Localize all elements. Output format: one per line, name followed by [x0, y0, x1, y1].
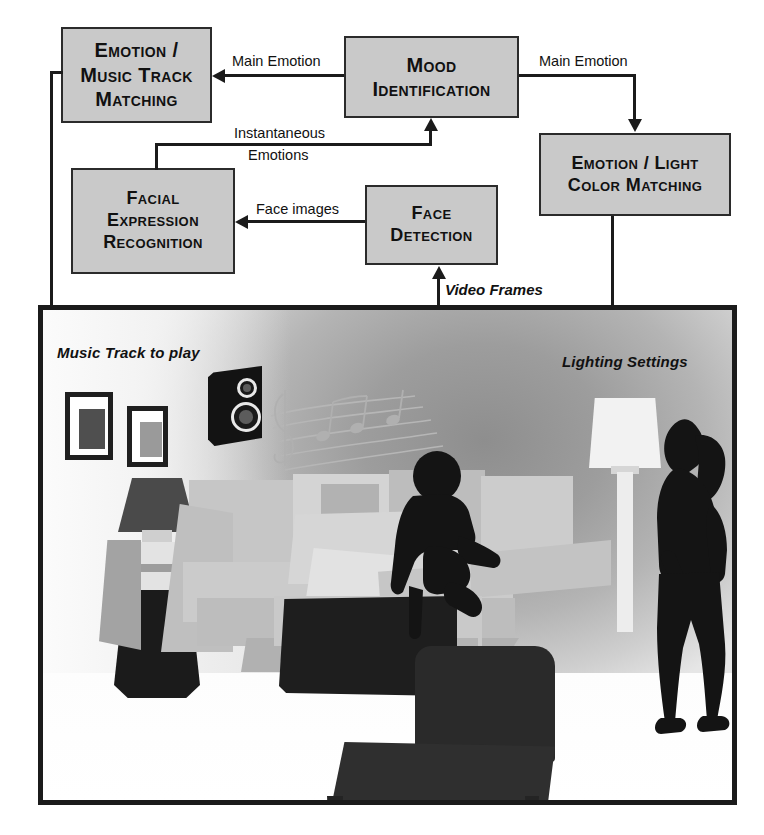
box-line: Identification — [372, 77, 490, 101]
edge-face-to-facial-line — [248, 220, 365, 223]
box-mood-identification[interactable]: Mood Identification — [344, 36, 519, 118]
edge-label-main-emotion-left: Main Emotion — [232, 52, 321, 70]
edge-mood-to-light-vertical — [633, 74, 636, 120]
edge-face-to-facial-arrowhead — [235, 215, 248, 229]
speaker-icon — [204, 362, 266, 450]
edge-mood-to-music-arrowhead — [212, 69, 225, 83]
diagram-canvas: Emotion / Music Track Matching Mood Iden… — [0, 0, 764, 835]
edge-facial-to-mood-vertical-left — [155, 143, 158, 170]
caption-music-track-to-play: Music Track to play — [57, 344, 200, 361]
edge-label-main-emotion-right: Main Emotion — [539, 52, 628, 70]
edge-label-instantaneous-line1: Instantaneous — [234, 124, 325, 142]
edge-label-video-frames: Video Frames — [445, 281, 543, 300]
caption-lighting-settings: Lighting Settings — [562, 353, 688, 370]
box-facial-expression-recognition[interactable]: Facial Expression Recognition — [71, 168, 235, 274]
edge-label-face-images: Face images — [256, 200, 339, 218]
edge-mood-to-light-horizontal — [519, 74, 636, 77]
box-line: Matching — [95, 87, 178, 111]
box-line: Facial — [126, 188, 179, 210]
box-line: Color Matching — [568, 175, 702, 197]
room-scene-panel: Music Track to play Lighting Settings — [38, 305, 737, 805]
picture-frame-left — [65, 392, 113, 460]
standing-woman-silhouette — [633, 408, 737, 768]
box-line: Recognition — [103, 232, 203, 254]
armchair — [311, 646, 571, 805]
box-emotion-music-track-matching[interactable]: Emotion / Music Track Matching — [61, 27, 212, 123]
seated-man-silhouette — [373, 450, 533, 650]
box-face-detection[interactable]: Face Detection — [365, 185, 498, 265]
box-line: Music Track — [80, 63, 193, 87]
edge-facial-to-mood-vertical-right — [429, 130, 432, 145]
edge-camera-to-face-arrowhead — [432, 266, 446, 279]
box-line: Expression — [107, 210, 199, 232]
edge-facial-to-mood-arrowhead — [424, 118, 438, 131]
edge-label-instantaneous-line2: Emotions — [248, 146, 308, 164]
box-line: Emotion / Light — [571, 153, 698, 175]
edge-mood-to-music-line — [225, 74, 344, 77]
box-line: Detection — [390, 225, 472, 247]
box-line: Mood — [406, 53, 456, 77]
edge-mood-to-light-arrowhead — [628, 119, 642, 132]
box-line: Emotion / — [94, 38, 178, 62]
picture-frame-right — [127, 406, 168, 467]
box-line: Face — [411, 203, 451, 225]
box-emotion-light-color-matching[interactable]: Emotion / Light Color Matching — [539, 133, 731, 216]
